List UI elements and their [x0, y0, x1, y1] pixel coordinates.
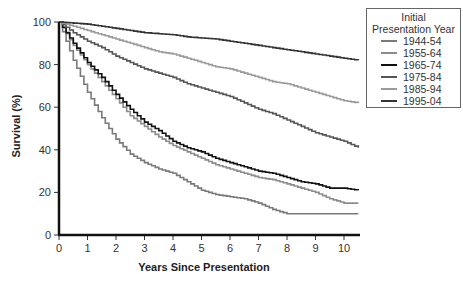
y-tick-label: 100	[33, 16, 51, 28]
y-tick-label: 20	[39, 186, 51, 198]
survival-curve-1995-04	[59, 22, 358, 60]
legend-item: 1944-54	[367, 35, 460, 47]
x-tick-label: 4	[170, 242, 176, 254]
y-tick-label: 80	[39, 59, 51, 71]
survival-curve-1975-84	[59, 22, 358, 148]
x-tick-label: 3	[141, 242, 147, 254]
legend-swatch	[381, 88, 397, 90]
x-tick-label: 6	[227, 242, 233, 254]
legend: Initial Presentation Year 1944-54 1955-6…	[366, 8, 461, 108]
legend-swatch	[381, 64, 397, 66]
legend-swatch	[381, 100, 397, 102]
legend-item: 1955-64	[367, 47, 460, 59]
y-axis-label: Survival (%)	[10, 86, 22, 166]
x-tick-label: 2	[113, 242, 119, 254]
x-tick-label: 9	[312, 242, 318, 254]
legend-item: 1965-74	[367, 59, 460, 71]
x-tick-label: 8	[284, 242, 290, 254]
legend-title: Initial Presentation Year	[367, 11, 460, 35]
y-tick-label: 60	[39, 101, 51, 113]
y-tick-label: 0	[45, 229, 51, 241]
legend-item: 1995-04	[367, 95, 460, 107]
x-tick-label: 1	[84, 242, 90, 254]
legend-item: 1975-84	[367, 71, 460, 83]
survival-curves	[59, 22, 358, 214]
y-tick-label: 40	[39, 144, 51, 156]
x-tick-label: 10	[338, 242, 350, 254]
legend-item: 1985-94	[367, 83, 460, 95]
survival-curve-1955-64	[59, 22, 358, 203]
legend-swatch	[381, 40, 397, 42]
x-tick-label: 7	[255, 242, 261, 254]
x-axis-label: Years Since Presentation	[59, 261, 349, 273]
survival-curve-1944-54	[59, 22, 358, 214]
legend-swatch	[381, 76, 397, 78]
x-tick-label: 5	[198, 242, 204, 254]
legend-swatch	[381, 52, 397, 54]
x-tick-label: 0	[56, 242, 62, 254]
